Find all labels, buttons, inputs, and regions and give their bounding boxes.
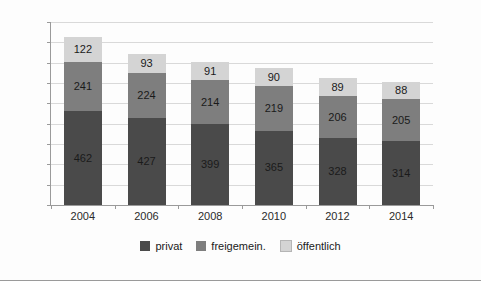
x-axis-tick-mark bbox=[242, 205, 243, 209]
gridline bbox=[51, 164, 433, 165]
bar-value-label: 214 bbox=[201, 97, 219, 108]
bar-segment[interactable]: 241 bbox=[64, 62, 102, 111]
y-axis-tick-mark bbox=[47, 63, 51, 64]
legend-label: privat bbox=[155, 240, 182, 252]
x-axis-tick-mark bbox=[306, 205, 307, 209]
bar-value-label: 93 bbox=[140, 58, 152, 69]
bar-segment[interactable]: 224 bbox=[128, 73, 166, 119]
bar-stack[interactable]: 91214399 bbox=[191, 62, 229, 205]
bar-segment[interactable]: 462 bbox=[64, 111, 102, 205]
bar-segment[interactable]: 214 bbox=[191, 80, 229, 124]
gridline bbox=[51, 185, 433, 186]
chart-frame: 0100200300400500600700800900 12224146293… bbox=[0, 0, 481, 281]
bar-value-label: 205 bbox=[392, 115, 410, 126]
bar-value-label: 219 bbox=[265, 103, 283, 114]
bar-value-label: 122 bbox=[74, 44, 92, 55]
gridline bbox=[51, 144, 433, 145]
legend-swatch-icon bbox=[280, 240, 292, 252]
legend-swatch-icon bbox=[140, 241, 150, 251]
bar-segment[interactable]: 328 bbox=[319, 138, 357, 205]
bar-segment[interactable]: 205 bbox=[382, 99, 420, 141]
chart-legend: privatfreigemein.öffentlich bbox=[0, 240, 481, 252]
bar-segment[interactable]: 122 bbox=[64, 37, 102, 62]
bar-value-label: 462 bbox=[74, 153, 92, 164]
bar-value-label: 88 bbox=[395, 85, 407, 96]
x-axis-tick-label: 2014 bbox=[371, 210, 431, 222]
plot-area: 0100200300400500600700800900 12224146293… bbox=[50, 22, 433, 206]
x-axis-tick-label: 2004 bbox=[53, 210, 113, 222]
x-axis-tick-mark bbox=[51, 205, 52, 209]
x-axis-tick-label: 2012 bbox=[308, 210, 368, 222]
bar-value-label: 224 bbox=[137, 90, 155, 101]
gridline bbox=[51, 83, 433, 84]
bar-segment[interactable]: 219 bbox=[255, 86, 293, 131]
x-axis-tick-mark bbox=[369, 205, 370, 209]
bar-value-label: 365 bbox=[265, 162, 283, 173]
legend-swatch-icon bbox=[196, 241, 206, 251]
bar-value-label: 427 bbox=[137, 156, 155, 167]
legend-label: öffentlich bbox=[297, 240, 341, 252]
bar-value-label: 206 bbox=[328, 112, 346, 123]
bar-value-label: 89 bbox=[331, 82, 343, 93]
x-axis-tick-label: 2010 bbox=[244, 210, 304, 222]
bar-segment[interactable]: 90 bbox=[255, 68, 293, 86]
bar-stack[interactable]: 90219365 bbox=[255, 68, 293, 205]
bar-segment[interactable]: 93 bbox=[128, 54, 166, 73]
gridline bbox=[51, 124, 433, 125]
bar-value-label: 241 bbox=[74, 81, 92, 92]
bar-value-label: 399 bbox=[201, 159, 219, 170]
y-axis-tick-mark bbox=[47, 164, 51, 165]
bar-value-label: 90 bbox=[268, 72, 280, 83]
y-axis-tick-mark bbox=[47, 22, 51, 23]
bar-segment[interactable]: 88 bbox=[382, 82, 420, 100]
x-axis-tick-mark bbox=[433, 205, 434, 209]
bar-segment[interactable]: 89 bbox=[319, 78, 357, 96]
y-axis-tick-mark bbox=[47, 185, 51, 186]
gridline bbox=[51, 42, 433, 43]
legend-item[interactable]: freigemein. bbox=[196, 240, 265, 252]
legend-label: freigemein. bbox=[211, 240, 265, 252]
y-axis-tick-mark bbox=[47, 42, 51, 43]
bar-segment[interactable]: 365 bbox=[255, 131, 293, 205]
bar-value-label: 91 bbox=[204, 66, 216, 77]
bar-segment[interactable]: 399 bbox=[191, 124, 229, 205]
legend-item[interactable]: privat bbox=[140, 240, 182, 252]
y-axis-tick-mark bbox=[47, 144, 51, 145]
y-axis-tick-mark bbox=[47, 124, 51, 125]
bar-segment[interactable]: 427 bbox=[128, 118, 166, 205]
legend-item[interactable]: öffentlich bbox=[280, 240, 341, 252]
x-axis-tick-mark bbox=[178, 205, 179, 209]
bar-value-label: 328 bbox=[328, 166, 346, 177]
x-axis-tick-label: 2006 bbox=[117, 210, 177, 222]
bar-segment[interactable]: 206 bbox=[319, 96, 357, 138]
bar-segment[interactable]: 314 bbox=[382, 141, 420, 205]
gridline bbox=[51, 22, 433, 23]
y-axis-tick-mark bbox=[47, 103, 51, 104]
bar-value-label: 314 bbox=[392, 168, 410, 179]
bar-stack[interactable]: 88205314 bbox=[382, 82, 420, 205]
bar-stack[interactable]: 122241462 bbox=[64, 37, 102, 205]
x-axis-tick-label: 2008 bbox=[180, 210, 240, 222]
bar-stack[interactable]: 93224427 bbox=[128, 54, 166, 205]
x-axis-tick-mark bbox=[115, 205, 116, 209]
bar-stack[interactable]: 89206328 bbox=[319, 78, 357, 205]
bar-segment[interactable]: 91 bbox=[191, 62, 229, 81]
gridline bbox=[51, 103, 433, 104]
gridline bbox=[51, 63, 433, 64]
y-axis-tick-mark bbox=[47, 83, 51, 84]
